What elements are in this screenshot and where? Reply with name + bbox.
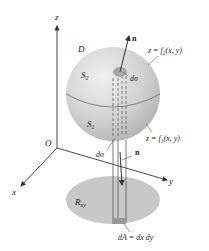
divergence-diagram: z x y O D S2 S1 n n dσ dσ z = f2(x, y) z… [0,0,209,251]
upper-normal-label: n [132,34,137,43]
upper-surface-equation: z = f2(x, y) [147,46,182,56]
leader-f2 [148,56,158,65]
origin-label: O [45,138,52,148]
lower-normal-label: n [135,148,140,157]
leader-f1 [146,124,152,132]
upper-dsigma-label: dσ [130,74,139,83]
lower-dsigma-label: dσ [96,150,105,159]
leader-lower-n [122,156,132,160]
y-axis-label: y [168,176,173,186]
y-axis [57,148,167,180]
z-axis-label: z [54,12,59,22]
lower-surface-equation: z = f1(x, y) [145,134,180,144]
x-axis-label: x [11,187,16,197]
region-d-label: D [77,44,85,54]
leader-dA [124,224,130,232]
area-element-label: dA = dx dy [118,233,154,242]
area-element-patch [113,218,126,224]
x-axis [21,148,57,186]
